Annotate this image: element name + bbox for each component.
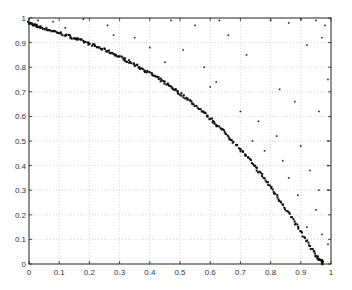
front-point xyxy=(291,216,293,218)
front-point xyxy=(205,112,207,114)
dominated-point xyxy=(312,248,314,250)
dominated-point xyxy=(327,140,329,142)
front-point xyxy=(267,181,269,183)
front-point xyxy=(321,263,323,265)
front-point xyxy=(274,193,276,195)
front-point xyxy=(321,261,323,263)
dominated-point xyxy=(282,160,284,162)
y-axis-ticks: 00.10.20.30.40.50.60.70.80.91 xyxy=(15,14,331,269)
dominated-point xyxy=(300,145,302,147)
front-point xyxy=(296,224,298,226)
front-point xyxy=(242,151,244,153)
front-point xyxy=(98,47,100,49)
y-tick-label: 0.7 xyxy=(15,88,27,97)
front-point xyxy=(193,103,195,105)
front-point xyxy=(71,38,73,40)
dominated-point xyxy=(309,170,311,172)
dominated-point xyxy=(164,61,166,63)
dominated-point xyxy=(203,66,205,68)
dominated-point xyxy=(276,135,278,137)
y-tick-label: 1 xyxy=(22,14,27,23)
dominated-point xyxy=(182,49,184,51)
front-point xyxy=(313,250,315,252)
dominated-point xyxy=(37,20,39,22)
front-point xyxy=(157,76,159,78)
front-point xyxy=(272,188,274,190)
y-tick-label: 0.1 xyxy=(15,235,27,244)
dominated-point xyxy=(306,226,308,228)
front-point xyxy=(124,57,126,59)
front-point xyxy=(177,90,179,92)
x-tick-label: 0.4 xyxy=(144,268,156,277)
dominated-point xyxy=(288,22,290,24)
front-point xyxy=(232,141,234,143)
dominated-point xyxy=(149,47,151,49)
x-tick-label: 0 xyxy=(27,268,32,277)
front-point xyxy=(283,207,285,209)
front-point xyxy=(149,71,151,73)
dominated-point xyxy=(321,37,323,39)
front-point xyxy=(254,165,256,167)
front-point xyxy=(187,98,189,100)
front-point xyxy=(101,49,103,51)
x-tick-label: 0.7 xyxy=(235,268,247,277)
front-point xyxy=(134,65,136,67)
front-point xyxy=(264,177,266,179)
y-tick-label: 0.6 xyxy=(15,112,27,121)
dominated-point xyxy=(194,25,196,27)
front-point xyxy=(54,30,56,32)
front-point xyxy=(304,237,306,239)
front-point xyxy=(301,235,303,237)
dominated-point xyxy=(288,177,290,179)
front-point xyxy=(218,125,220,127)
dominated-point xyxy=(306,44,308,46)
front-point xyxy=(104,48,106,50)
x-tick-label: 0.8 xyxy=(265,268,277,277)
front-point xyxy=(96,46,98,48)
dominated-point xyxy=(107,25,109,27)
data-points xyxy=(27,18,329,265)
front-point xyxy=(136,64,138,66)
front-point xyxy=(190,100,192,102)
front-point xyxy=(94,45,96,47)
front-point xyxy=(118,55,120,57)
front-point xyxy=(292,218,294,220)
dominated-point xyxy=(264,150,266,152)
dominated-point xyxy=(252,140,254,142)
dominated-point xyxy=(218,20,220,22)
dominated-point xyxy=(113,34,115,36)
dominated-point xyxy=(170,20,172,22)
front-point xyxy=(297,228,299,230)
front-point xyxy=(39,27,41,29)
front-point xyxy=(289,213,291,215)
dominated-point xyxy=(315,20,317,22)
dominated-point xyxy=(318,111,320,113)
front-point xyxy=(195,105,197,107)
y-tick-label: 0.8 xyxy=(15,63,27,72)
front-point xyxy=(227,136,229,138)
x-tick-label: 1 xyxy=(329,268,334,277)
front-point xyxy=(158,78,160,80)
x-tick-label: 0.6 xyxy=(205,268,217,277)
front-point xyxy=(37,26,39,28)
front-point xyxy=(276,196,278,198)
front-point xyxy=(177,93,179,95)
front-point xyxy=(301,232,303,234)
front-point xyxy=(207,115,209,117)
front-point xyxy=(225,133,227,135)
front-point xyxy=(89,43,91,45)
front-point xyxy=(146,70,148,72)
front-point xyxy=(211,118,213,120)
dominated-point xyxy=(327,244,329,246)
front-point xyxy=(45,27,47,29)
front-point xyxy=(62,34,64,36)
front-point xyxy=(294,220,296,222)
front-point xyxy=(39,25,41,27)
front-point xyxy=(175,89,177,91)
front-point xyxy=(85,41,87,43)
front-point xyxy=(224,131,226,133)
front-point xyxy=(307,242,309,244)
y-tick-label: 0.5 xyxy=(15,137,27,146)
front-point xyxy=(126,61,128,63)
front-point xyxy=(240,150,242,152)
